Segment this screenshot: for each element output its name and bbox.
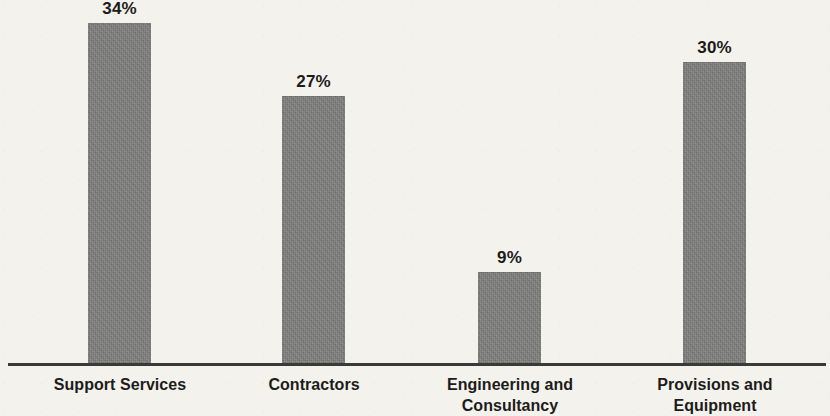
- bar-chart: 34% 27% 9% 30% Support Services Contract…: [0, 0, 830, 416]
- bar-contractors: [282, 96, 345, 364]
- category-label-provisions-and-equipment: Provisions and Equipment: [615, 374, 815, 416]
- category-label-line: Equipment: [615, 395, 815, 416]
- bar-value-provisions-and-equipment: 30%: [683, 38, 746, 58]
- bar-value-contractors: 27%: [282, 72, 345, 92]
- x-axis-line: [8, 363, 826, 366]
- category-label-line: Engineering and: [410, 374, 610, 395]
- bar-value-engineering-and-consultancy: 9%: [478, 248, 541, 268]
- category-label-line: Consultancy: [410, 395, 610, 416]
- category-label-line: Contractors: [214, 374, 414, 395]
- category-label-engineering-and-consultancy: Engineering and Consultancy: [410, 374, 610, 416]
- bar-value-support-services: 34%: [88, 0, 151, 19]
- bar-engineering-and-consultancy: [478, 272, 541, 364]
- plot-area: 34% 27% 9% 30%: [0, 0, 830, 364]
- bar-provisions-and-equipment: [683, 62, 746, 364]
- category-label-support-services: Support Services: [20, 374, 220, 395]
- category-label-contractors: Contractors: [214, 374, 414, 395]
- category-label-line: Support Services: [20, 374, 220, 395]
- bar-support-services: [88, 23, 151, 364]
- category-label-line: Provisions and: [615, 374, 815, 395]
